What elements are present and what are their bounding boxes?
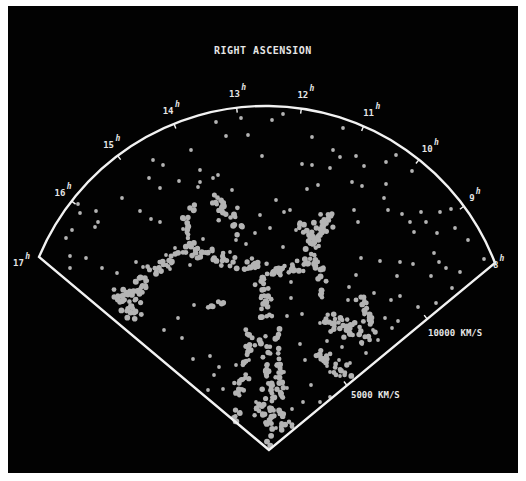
galaxy-point xyxy=(301,400,305,404)
galaxy-point xyxy=(306,232,311,237)
galaxy-point xyxy=(300,312,304,316)
galaxy-point xyxy=(279,427,285,433)
galaxy-point xyxy=(398,294,402,298)
galaxy-point xyxy=(152,266,157,271)
galaxy-point xyxy=(368,322,373,327)
galaxy-point xyxy=(185,215,190,220)
galaxy-point xyxy=(143,285,148,290)
galaxy-point xyxy=(243,372,248,377)
galaxy-point xyxy=(274,426,278,430)
galaxy-point xyxy=(145,278,149,282)
hour-tick-14 xyxy=(174,124,176,129)
galaxy-point xyxy=(196,185,200,189)
galaxy-point xyxy=(359,256,363,260)
galaxy-point xyxy=(325,312,330,317)
galaxy-point xyxy=(235,205,240,210)
galaxy-point xyxy=(338,315,344,321)
galaxy-point xyxy=(328,370,332,374)
galaxy-point xyxy=(279,380,285,386)
galaxy-point xyxy=(219,263,224,268)
galaxy-point xyxy=(303,260,307,264)
galaxy-point xyxy=(191,357,195,361)
galaxy-point xyxy=(419,210,423,214)
galaxy-point xyxy=(216,173,220,177)
galaxy-point xyxy=(333,317,337,321)
galaxy-point xyxy=(356,220,360,224)
galaxy-point xyxy=(306,238,311,243)
galaxy-point xyxy=(180,215,186,221)
galaxy-point xyxy=(276,346,281,351)
galaxy-point xyxy=(350,180,354,184)
galaxy-point xyxy=(70,228,74,232)
galaxy-point xyxy=(138,274,144,280)
hour-tick-9 xyxy=(460,206,464,209)
galaxy-point xyxy=(268,433,274,439)
galaxy-point xyxy=(149,217,153,221)
galaxy-point xyxy=(358,295,363,300)
galaxy-point xyxy=(232,255,237,260)
galaxy-point xyxy=(437,260,441,264)
galaxy-point xyxy=(230,188,234,192)
galaxy-point xyxy=(177,179,181,183)
galaxy-point xyxy=(264,344,269,349)
galaxy-point xyxy=(262,287,267,292)
galaxy-point xyxy=(253,231,257,235)
galaxy-point xyxy=(76,202,80,206)
hour-superscript: h xyxy=(500,254,505,263)
galaxy-point xyxy=(277,326,283,332)
galaxy-point xyxy=(408,220,412,224)
galaxy-point xyxy=(244,242,248,246)
galaxy-point xyxy=(141,265,145,269)
hour-superscript: h xyxy=(25,252,30,261)
galaxy-point xyxy=(458,270,462,274)
galaxy-point xyxy=(316,260,321,265)
galaxy-point xyxy=(206,250,211,255)
galaxy-point xyxy=(372,291,376,295)
galaxy-point xyxy=(211,255,217,261)
galaxy-point xyxy=(296,268,302,274)
galaxy-point xyxy=(272,336,278,342)
galaxy-point xyxy=(233,414,237,418)
hour-label-12: 12 xyxy=(297,90,308,100)
radial-tick-10000 xyxy=(424,315,427,319)
galaxy-point xyxy=(348,332,353,337)
galaxy-point xyxy=(133,279,137,283)
galaxy-point xyxy=(266,381,271,386)
galaxy-point xyxy=(288,208,292,212)
galaxy-point xyxy=(282,210,286,214)
galaxy-point xyxy=(301,269,305,273)
galaxy-point xyxy=(120,196,124,200)
galaxy-point xyxy=(260,301,266,307)
galaxy-point xyxy=(254,400,258,404)
galaxy-point xyxy=(333,362,338,367)
galaxy-point xyxy=(282,370,286,374)
galaxy-point xyxy=(263,334,267,338)
galaxy-point xyxy=(198,254,204,260)
galaxy-point xyxy=(338,155,342,159)
galaxy-point xyxy=(115,271,119,275)
galaxy-point xyxy=(119,308,125,314)
galaxy-point xyxy=(416,305,420,309)
galaxy-point xyxy=(164,253,168,257)
galaxy-point xyxy=(328,329,333,334)
galaxy-point xyxy=(260,355,265,360)
galaxy-point xyxy=(246,133,250,137)
galaxy-point xyxy=(318,400,322,404)
galaxy-point xyxy=(285,314,289,318)
galaxy-point xyxy=(138,209,142,213)
galaxy-point xyxy=(241,377,246,382)
galaxy-point xyxy=(331,311,337,317)
galaxy-point xyxy=(254,261,259,266)
galaxy-point xyxy=(169,259,175,265)
galaxy-point xyxy=(308,257,312,261)
hour-superscript: h xyxy=(241,83,246,92)
galaxy-point xyxy=(234,363,238,367)
galaxy-point xyxy=(181,250,186,255)
galaxy-point xyxy=(224,134,228,138)
galaxy-point xyxy=(325,216,330,221)
galaxy-point xyxy=(270,269,276,275)
galaxy-point xyxy=(112,294,117,299)
radial-label-10000: 10000 KM/S xyxy=(428,328,482,338)
galaxy-point xyxy=(270,395,275,400)
galaxy-point xyxy=(248,265,254,271)
